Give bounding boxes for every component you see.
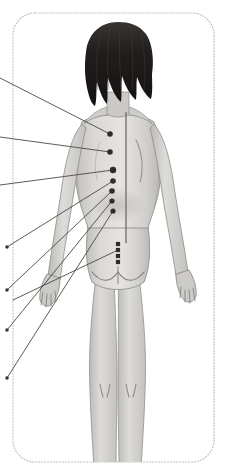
leader-terminal-dot-7 [5,376,9,380]
leader-terminal-dot-5 [5,288,9,292]
lumbar-shading [92,187,144,223]
acupuncture-point-1[interactable] [107,131,113,137]
diagram-panel [0,0,226,476]
right-leg [118,276,146,470]
body-diagram-svg [0,0,226,476]
leader-terminal-dot-4 [5,245,9,249]
acupuncture-point-4[interactable] [110,178,116,184]
acupuncture-point-7[interactable] [110,208,115,213]
sacral-point-3[interactable] [116,254,120,258]
sacral-point-2[interactable] [116,248,120,252]
leader-terminal-dot-6 [5,328,9,332]
sacral-point-4[interactable] [116,260,120,264]
sacral-point-1[interactable] [116,242,120,246]
acupuncture-point-3[interactable] [110,167,116,173]
acupuncture-point-5[interactable] [109,188,115,194]
left-leg [89,276,117,470]
acupuncture-point-2[interactable] [107,149,113,155]
acupuncture-point-6[interactable] [109,198,114,203]
leader-line-terminals [5,245,9,380]
